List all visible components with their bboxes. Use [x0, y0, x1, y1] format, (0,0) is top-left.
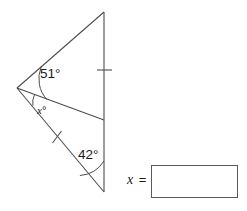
geometry-problem: 51° x° 42° x = — [0, 0, 247, 211]
angle-label-42: 42° — [78, 148, 98, 162]
angle-arc-x — [33, 94, 35, 105]
answer-variable: x — [127, 172, 133, 187]
answer-input[interactable] — [151, 165, 238, 198]
answer-prefix: x = — [127, 173, 146, 187]
segment-left-to-top — [17, 12, 104, 88]
answer-equals-sign: = — [139, 172, 147, 187]
angle-label-x: x° — [37, 105, 46, 116]
angle-label-51: 51° — [40, 67, 60, 81]
angle-label-x-degree-symbol: ° — [42, 104, 46, 116]
